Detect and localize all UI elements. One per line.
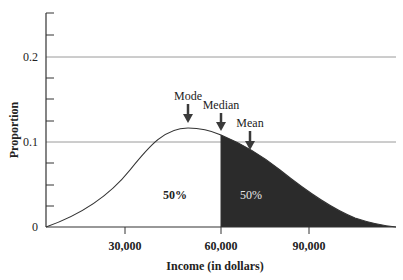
x-ticks bbox=[125, 227, 309, 234]
y-tick-label-0: 0 bbox=[32, 220, 38, 234]
y-ticks bbox=[46, 13, 54, 206]
income-distribution-chart: 0.2 0.1 0 Proportion 30,000 60,000 90,00… bbox=[0, 0, 403, 280]
y-tick-label-0.2: 0.2 bbox=[23, 50, 38, 64]
y-tick-label-0.1: 0.1 bbox=[23, 135, 38, 149]
y-axis-title: Proportion bbox=[7, 101, 21, 158]
x-axis-title: Income (in dollars) bbox=[166, 259, 263, 273]
shaded-area-above-median bbox=[221, 135, 396, 227]
median-arrow-icon bbox=[216, 113, 226, 131]
mean-label: Mean bbox=[236, 116, 263, 130]
x-tick-label-90000: 90,000 bbox=[293, 239, 326, 253]
right-percent-label: 50% bbox=[240, 188, 262, 202]
x-tick-label-60000: 60,000 bbox=[205, 239, 238, 253]
left-percent-label: 50% bbox=[163, 188, 187, 202]
mode-arrow-icon bbox=[183, 104, 193, 123]
mode-label: Mode bbox=[174, 89, 202, 103]
median-label: Median bbox=[203, 98, 240, 112]
x-tick-label-30000: 30,000 bbox=[109, 239, 142, 253]
